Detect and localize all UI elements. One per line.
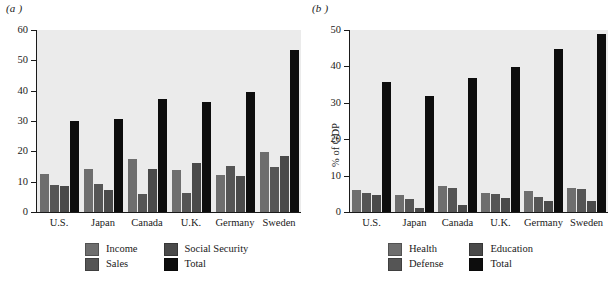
y-tick-label-b: 50 <box>331 25 342 36</box>
y-tick-label-a: 20 <box>18 146 29 157</box>
bar-group-b: U.S. <box>350 30 393 212</box>
bar-total-japan <box>425 96 434 212</box>
x-axis-label-us: U.S. <box>50 217 69 228</box>
bar-sales-germany <box>226 166 235 212</box>
legend-swatch-icon <box>388 258 402 271</box>
bar-social-security-uk <box>192 163 201 212</box>
bar-income-canada <box>128 159 137 212</box>
y-tick-b <box>344 212 350 213</box>
bar-total-us <box>70 121 79 212</box>
bar-groups-a: U.S.JapanCanadaU.K.GermanySweden <box>37 30 301 212</box>
y-tick-label-a: 30 <box>18 116 29 127</box>
legend-swatch-icon <box>164 258 178 271</box>
bar-social-security-germany <box>236 176 245 212</box>
legend-label: Total <box>490 259 511 270</box>
bar-group-a: Japan <box>81 30 125 212</box>
panel-a-label: (a ) <box>6 2 22 14</box>
bar-health-uk <box>481 193 490 212</box>
legend-swatch-icon <box>85 258 99 271</box>
x-axis-label-germany: Germany <box>215 217 254 228</box>
bar-health-canada <box>438 186 447 212</box>
y-tick-b <box>344 30 350 31</box>
bar-education-japan <box>415 208 424 212</box>
y-tick-label-a: 0 <box>23 207 28 218</box>
bar-education-germany <box>544 201 553 212</box>
bar-income-sweden <box>260 152 269 212</box>
figure-container: (a ) U.S.JapanCanadaU.K.GermanySweden 01… <box>0 0 615 289</box>
y-tick-label-a: 60 <box>18 25 29 36</box>
bar-group-b: U.K. <box>479 30 522 212</box>
bar-total-germany <box>246 92 255 212</box>
bar-defense-sweden <box>577 189 586 212</box>
bar-income-japan <box>84 169 93 212</box>
legend-a: IncomeSocial SecuritySalesTotal <box>85 243 248 271</box>
x-axis-label-sweden: Sweden <box>570 217 603 228</box>
y-tick-a <box>31 91 37 92</box>
legend-swatch-icon <box>469 258 483 271</box>
legend-swatch-icon <box>85 243 99 256</box>
y-tick-b <box>344 176 350 177</box>
y-tick-a <box>31 182 37 183</box>
bar-defense-us <box>362 193 371 212</box>
panel-a: (a ) U.S.JapanCanadaU.K.GermanySweden 01… <box>0 0 307 289</box>
y-tick-label-b: 0 <box>336 207 341 218</box>
legend-item-health[interactable]: Health <box>388 243 443 256</box>
legend-item-income[interactable]: Income <box>85 243 138 256</box>
bar-group-b: Germany <box>522 30 565 212</box>
bar-social-security-canada <box>148 169 157 212</box>
bar-total-us <box>382 82 391 212</box>
bar-sales-japan <box>94 184 103 213</box>
bar-defense-japan <box>405 199 414 212</box>
x-axis-label-uk: U.K. <box>490 217 510 228</box>
x-axis-label-japan: Japan <box>91 217 115 228</box>
legend-label: Social Security <box>185 244 249 255</box>
legend-item-defense[interactable]: Defense <box>388 258 443 271</box>
y-tick-a <box>31 121 37 122</box>
bar-total-uk <box>202 102 211 212</box>
bar-education-uk <box>501 198 510 212</box>
bar-education-sweden <box>587 201 596 212</box>
bar-education-canada <box>458 205 467 212</box>
x-axis-label-canada: Canada <box>131 217 163 228</box>
bar-sales-uk <box>182 193 191 212</box>
legend-label: Income <box>106 244 138 255</box>
bar-education-us <box>372 195 381 212</box>
bar-health-sweden <box>567 188 576 212</box>
bar-social-security-japan <box>104 190 113 212</box>
legend-item-total[interactable]: Total <box>164 258 249 271</box>
bar-health-japan <box>395 195 404 212</box>
bar-group-a: Germany <box>213 30 257 212</box>
y-tick-a <box>31 151 37 152</box>
bar-social-security-us <box>60 186 69 212</box>
bar-total-canada <box>468 78 477 212</box>
y-tick-label-b: 10 <box>331 170 342 181</box>
legend-item-social-security[interactable]: Social Security <box>164 243 249 256</box>
y-tick-a <box>31 60 37 61</box>
legend-item-education[interactable]: Education <box>469 243 533 256</box>
y-tick-label-b: 20 <box>331 134 342 145</box>
y-axis-title-b: % of GDP <box>330 123 341 167</box>
panel-b-label: (b ) <box>312 2 328 14</box>
bar-health-germany <box>524 191 533 212</box>
bar-groups-b: U.S.JapanCanadaU.K.GermanySweden <box>350 30 608 212</box>
panel-b: (b ) % of GDP U.S.JapanCanadaU.K.Germany… <box>308 0 615 289</box>
x-axis-label-us: U.S. <box>362 217 381 228</box>
legend-label: Defense <box>409 259 443 270</box>
bar-total-sweden <box>290 50 299 212</box>
legend-item-sales[interactable]: Sales <box>85 258 138 271</box>
bar-group-b: Japan <box>393 30 436 212</box>
x-axis-label-japan: Japan <box>403 217 427 228</box>
bar-group-b: Canada <box>436 30 479 212</box>
bar-social-security-sweden <box>280 156 289 212</box>
legend-swatch-icon <box>164 243 178 256</box>
bar-group-b: Sweden <box>565 30 608 212</box>
legend-b: HealthEducationDefenseTotal <box>388 243 533 271</box>
x-axis-label-germany: Germany <box>524 217 563 228</box>
y-tick-label-a: 10 <box>18 176 29 187</box>
legend-item-total[interactable]: Total <box>469 258 533 271</box>
plot-area-b: U.S.JapanCanadaU.K.GermanySweden 0102030… <box>349 30 608 213</box>
bar-sales-canada <box>138 194 147 212</box>
y-tick-a <box>31 30 37 31</box>
bar-total-sweden <box>597 34 606 212</box>
bar-group-a: U.K. <box>169 30 213 212</box>
